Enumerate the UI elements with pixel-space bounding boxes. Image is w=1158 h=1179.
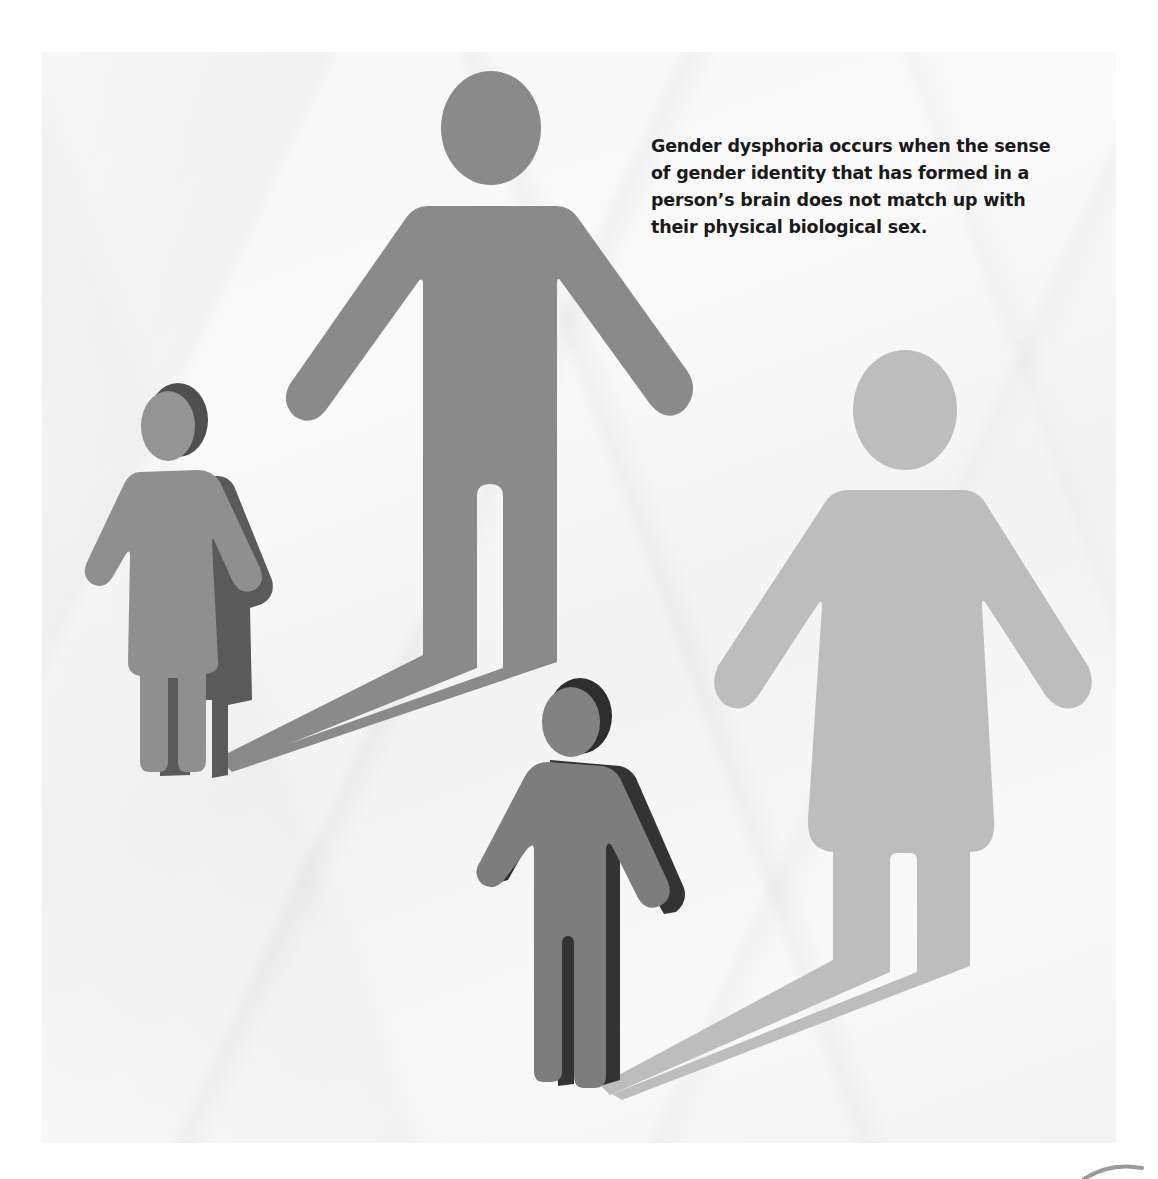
small-boy-figure [476,678,685,1088]
man-shadow-head [441,71,541,185]
woman-shadow [600,350,1092,1100]
man-shadow-leg-left [218,655,477,770]
woman-shadow-head [853,350,957,470]
small-girl-figure [85,383,273,778]
woman-shadow-body [714,490,1092,965]
caption-text: Gender dysphoria occurs when the sense o… [651,133,1051,241]
man-shadow [218,71,693,772]
girl-head [141,391,195,461]
man-shadow-body [286,206,693,655]
woman-shadow-leg-left [600,960,890,1095]
boy-head [542,687,600,757]
woman-shadow-leg-right [612,960,970,1100]
corner-arc-decoration [1080,1158,1150,1179]
